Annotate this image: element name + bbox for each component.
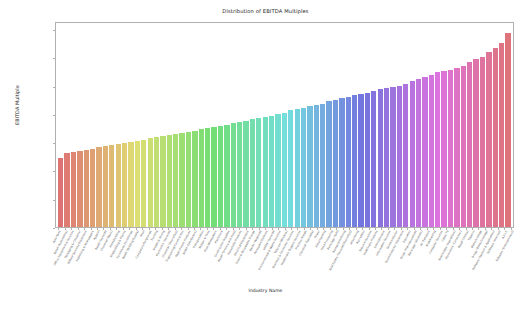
bar	[333, 100, 338, 227]
bar	[320, 104, 325, 227]
bar	[326, 101, 331, 227]
bar	[256, 118, 261, 227]
bar	[461, 66, 466, 227]
bar	[58, 158, 63, 227]
bar	[90, 149, 95, 227]
bar	[505, 33, 510, 227]
bar	[422, 77, 427, 227]
bar	[186, 132, 191, 227]
bar	[141, 140, 146, 227]
bar	[339, 98, 344, 227]
bar	[288, 110, 293, 227]
bar	[154, 137, 159, 227]
y-tick-mark	[53, 228, 55, 229]
y-tick-mark	[53, 171, 55, 172]
bar	[218, 126, 223, 227]
bar	[429, 75, 434, 227]
bar	[211, 127, 216, 227]
y-tick-mark	[53, 200, 55, 201]
bar	[109, 145, 114, 227]
bar	[493, 48, 498, 227]
bar	[486, 52, 491, 227]
bar	[96, 147, 101, 227]
y-axis-label: EBITDA Multiple	[14, 85, 20, 125]
bar	[116, 144, 121, 227]
bar	[122, 143, 127, 227]
y-tick-mark	[53, 58, 55, 59]
bar	[167, 135, 172, 227]
bar	[384, 88, 389, 227]
chart-figure: Distribution of EBITDA Multiples EBITDA …	[0, 0, 531, 311]
bar	[269, 116, 274, 227]
bar	[416, 79, 421, 227]
y-tick-mark	[53, 115, 55, 116]
bar	[314, 105, 319, 227]
bar	[128, 142, 133, 227]
bar	[160, 136, 165, 227]
bar	[346, 97, 351, 227]
bar	[403, 84, 408, 227]
bar	[205, 128, 210, 227]
bar	[275, 114, 280, 227]
y-tick-mark	[53, 143, 55, 144]
bar	[179, 133, 184, 227]
bar	[358, 94, 363, 227]
plot-area	[55, 22, 514, 228]
bar	[352, 95, 357, 227]
bar	[250, 119, 255, 227]
bar	[307, 106, 312, 227]
bar	[199, 129, 204, 227]
y-tick-mark	[53, 30, 55, 31]
bar-series	[56, 23, 513, 227]
bar	[371, 91, 376, 227]
bar	[173, 134, 178, 227]
bar	[282, 113, 287, 227]
bar	[499, 43, 504, 227]
chart-title: Distribution of EBITDA Multiples	[0, 8, 531, 14]
bar	[237, 122, 242, 227]
bar	[390, 87, 395, 227]
bar	[301, 108, 306, 227]
bar	[263, 117, 268, 227]
bar	[435, 72, 440, 227]
bar	[148, 138, 153, 227]
bar	[64, 153, 69, 227]
bar	[295, 109, 300, 227]
bar	[448, 70, 453, 227]
bar	[231, 123, 236, 227]
bar	[397, 86, 402, 227]
bar	[192, 131, 197, 227]
bar	[77, 151, 82, 227]
bar	[378, 89, 383, 227]
y-tick-mark	[53, 87, 55, 88]
bar	[454, 68, 459, 227]
x-axis-label: Industry Name	[0, 288, 531, 293]
bar	[243, 121, 248, 227]
bar	[480, 57, 485, 227]
bar	[84, 150, 89, 227]
bar	[71, 152, 76, 227]
bar	[103, 146, 108, 227]
x-axis-tick-labels: Auto PartsRetail (Automotive)Office Equi…	[55, 230, 514, 288]
bar	[410, 81, 415, 227]
bar	[365, 93, 370, 228]
bar	[441, 71, 446, 227]
bar	[467, 62, 472, 227]
bar	[473, 59, 478, 227]
bar	[224, 125, 229, 227]
bar	[135, 141, 140, 227]
